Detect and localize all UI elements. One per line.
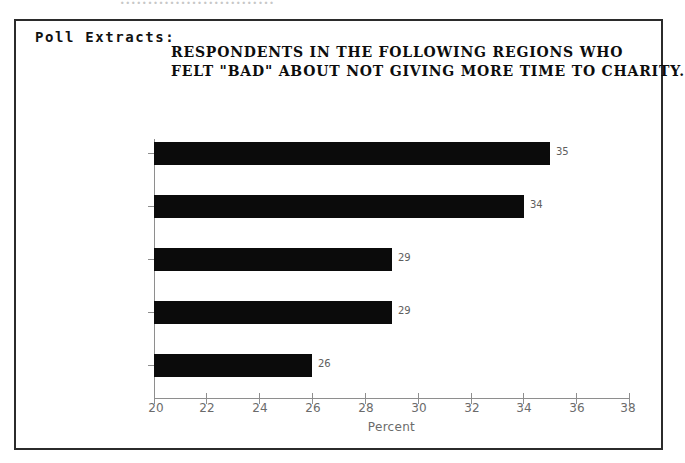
bar	[154, 248, 392, 271]
bar-value-label: 35	[556, 146, 569, 157]
bar	[154, 354, 312, 377]
poll-extract-frame: Poll Extracts: RESPONDENTS IN THE FOLLOW…	[14, 19, 663, 450]
x-axis-line	[154, 398, 629, 399]
bar-row: Central 29	[154, 248, 629, 271]
bar-value-label: 34	[530, 199, 543, 210]
x-axis-tick-label: 24	[252, 401, 267, 415]
bar	[154, 142, 550, 165]
bar-chart-plot-area: Great Lakes 35 Northeast 34 Central 29 W…	[16, 21, 665, 452]
bar-value-label: 29	[398, 252, 411, 263]
x-axis-tick-label: 36	[569, 401, 584, 415]
bar	[154, 195, 524, 218]
x-axis-tick-label: 30	[411, 401, 426, 415]
x-axis-title: Percent	[154, 420, 629, 434]
x-axis-tick-label: 26	[305, 401, 320, 415]
bar-row: West 29	[154, 301, 629, 324]
bar-row: Great Lakes 35	[154, 142, 629, 165]
x-axis-tick-label: 28	[358, 401, 373, 415]
x-axis-tick-label: 38	[620, 401, 635, 415]
x-axis-tick-label: 20	[148, 401, 163, 415]
bar-row: Northeast 34	[154, 195, 629, 218]
clipped-header-text: ............................	[120, 0, 560, 4]
bar-value-label: 29	[398, 305, 411, 316]
bar-row: South 26	[154, 354, 629, 377]
x-axis-tick-label: 22	[199, 401, 214, 415]
bar-value-label: 26	[318, 358, 331, 369]
x-axis-tick-label: 32	[464, 401, 479, 415]
x-axis-tick-label: 34	[516, 401, 531, 415]
bar	[154, 301, 392, 324]
